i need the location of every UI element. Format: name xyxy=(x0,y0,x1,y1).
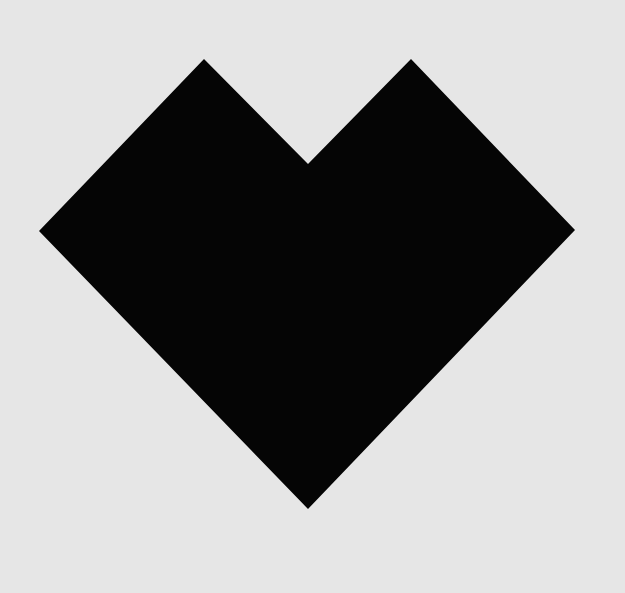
canvas xyxy=(0,0,625,593)
heart-graphic xyxy=(0,0,625,593)
